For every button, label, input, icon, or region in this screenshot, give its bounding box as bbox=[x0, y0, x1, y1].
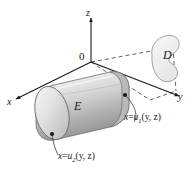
origin-label: 0 bbox=[79, 51, 85, 62]
z-axis-label: z bbox=[86, 8, 90, 18]
diagram-svg bbox=[0, 0, 194, 171]
back-eq-args: (y, z) bbox=[76, 151, 95, 161]
projection-region-label: D bbox=[163, 49, 172, 61]
x-axis-label: x bbox=[7, 97, 11, 107]
front-eq-args: (y, z) bbox=[142, 112, 161, 122]
front-surface-equation: x=u1(y, z) bbox=[124, 113, 161, 124]
figure-canvas: z 0 x y D E x=u1(y, z) x=u2(y, z) bbox=[0, 0, 194, 171]
back-surface-equation: x=u2(y, z) bbox=[58, 152, 95, 163]
solid-region-label: E bbox=[74, 100, 81, 112]
y-axis-label: y bbox=[178, 92, 182, 102]
